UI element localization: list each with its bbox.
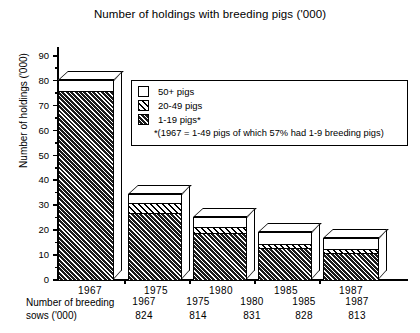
segment-50plus-1980: [194, 218, 246, 227]
x-tick-label-1980: 1980: [209, 285, 233, 296]
table-year-1985: 1985: [292, 296, 315, 307]
legend-item-1to19[interactable]: 1-19 pigs*: [138, 113, 201, 126]
x-tick-label-1975: 1975: [144, 285, 168, 296]
segment-1to19-1980: [194, 233, 246, 280]
y-tick-label-10: 10: [38, 249, 49, 260]
table-value-1980: 831: [243, 310, 261, 321]
chart-root: Number of holdings with breeding pigs ('…: [0, 0, 420, 333]
bar-side-1985: [312, 223, 320, 279]
y-tick-label-20: 20: [38, 224, 49, 235]
bar-face-1987: [323, 238, 379, 279]
segment-1to19-1985: [259, 248, 311, 280]
dark-hatch-swatch-icon: [138, 114, 149, 125]
x-tick-label-1967: 1967: [78, 285, 102, 296]
bar-face-1975: [128, 194, 182, 279]
bar-face-1980: [193, 217, 247, 279]
table-value-1987: 813: [348, 310, 366, 321]
y-tick-label-50: 50: [38, 149, 49, 160]
legend-label-1to19: 1-19 pigs*: [158, 114, 201, 125]
legend-label-20to49: 20-49 pigs: [158, 100, 202, 111]
table-row-label-line2: sows ('000): [26, 309, 114, 322]
segment-1to19-1987: [324, 253, 378, 280]
table-row-label: Number of breeding sows ('000): [26, 296, 114, 322]
bar-1980[interactable]: [193, 217, 247, 279]
bar-1975[interactable]: [128, 194, 182, 279]
table-year-1975: 1975: [186, 296, 209, 307]
table-value-1985: 828: [295, 310, 313, 321]
y-tick-label-80: 80: [38, 74, 49, 85]
bar-1985[interactable]: [258, 232, 312, 279]
y-axis-title: Number of holdings ('000): [18, 36, 29, 186]
bar-side-1987: [379, 229, 387, 279]
y-tick-label-0: 0: [44, 274, 49, 285]
x-tick-label-1987: 1987: [339, 285, 363, 296]
legend-label-50plus: 50+ pigs: [158, 86, 194, 97]
table-value-1975: 814: [189, 310, 207, 321]
segment-50plus-1985: [259, 233, 311, 244]
y-tick-label-40: 40: [38, 174, 49, 185]
table-year-1980: 1980: [240, 296, 263, 307]
y-tick-label-90: 90: [38, 50, 49, 61]
table-value-1967: 824: [135, 310, 153, 321]
y-tick-label-70: 70: [38, 99, 49, 110]
legend-item-20to49[interactable]: 20-49 pigs: [138, 99, 202, 112]
segment-20to49-1975: [129, 203, 181, 213]
segment-50plus-1967: [59, 81, 113, 91]
bar-side-1967: [114, 71, 122, 279]
bar-1987[interactable]: [323, 238, 379, 279]
breeding-sows-table: Number of breeding sows ('000) 1967 1975…: [0, 296, 420, 333]
y-tick-label-30: 30: [38, 199, 49, 210]
table-row-label-line1: Number of breeding: [26, 296, 114, 309]
legend-footnote: *(1967 = 1-49 pigs of which 57% had 1-9 …: [154, 128, 384, 138]
y-axis-ticks: 90 80 70 60 50 40 30 20 10 0: [0, 0, 58, 333]
segment-1to19-1967: [59, 91, 113, 280]
chart-legend: 50+ pigs 20-49 pigs 1-19 pigs* *(1967 = …: [131, 80, 408, 146]
bar-1967[interactable]: [58, 80, 114, 279]
legend-item-50plus[interactable]: 50+ pigs: [138, 85, 194, 98]
bar-face-1967: [58, 80, 114, 279]
bar-side-1980: [247, 208, 255, 279]
chart-title: Number of holdings with breeding pigs ('…: [0, 8, 420, 20]
bar-face-1985: [258, 232, 312, 279]
white-swatch-icon: [138, 86, 149, 97]
bar-side-1975: [182, 186, 190, 279]
table-year-1967: 1967: [132, 296, 155, 307]
x-tick-label-1985: 1985: [274, 285, 298, 296]
table-year-1987: 1987: [345, 296, 368, 307]
light-hatch-swatch-icon: [138, 100, 149, 111]
segment-50plus-1987: [324, 239, 378, 249]
segment-50plus-1975: [129, 195, 181, 202]
segment-1to19-1975: [129, 213, 181, 280]
y-tick-label-60: 60: [38, 124, 49, 135]
